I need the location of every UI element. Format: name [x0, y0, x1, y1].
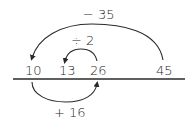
tick-label-10: 10 [25, 64, 42, 77]
operation-label-plus-16: + 16 [54, 106, 86, 119]
number-line-diagram: 10 13 26 45 − 35 ÷ 2 + 16 [0, 0, 193, 130]
tick-label-26: 26 [90, 64, 107, 77]
divide-2-arc [65, 49, 97, 61]
tick-label-13: 13 [59, 64, 76, 77]
minus-35-arc [32, 24, 163, 60]
tick-label-45: 45 [156, 64, 173, 77]
operation-label-minus-35: − 35 [83, 8, 115, 21]
plus-16-arc [32, 82, 97, 102]
operation-label-divide-2: ÷ 2 [71, 34, 94, 47]
